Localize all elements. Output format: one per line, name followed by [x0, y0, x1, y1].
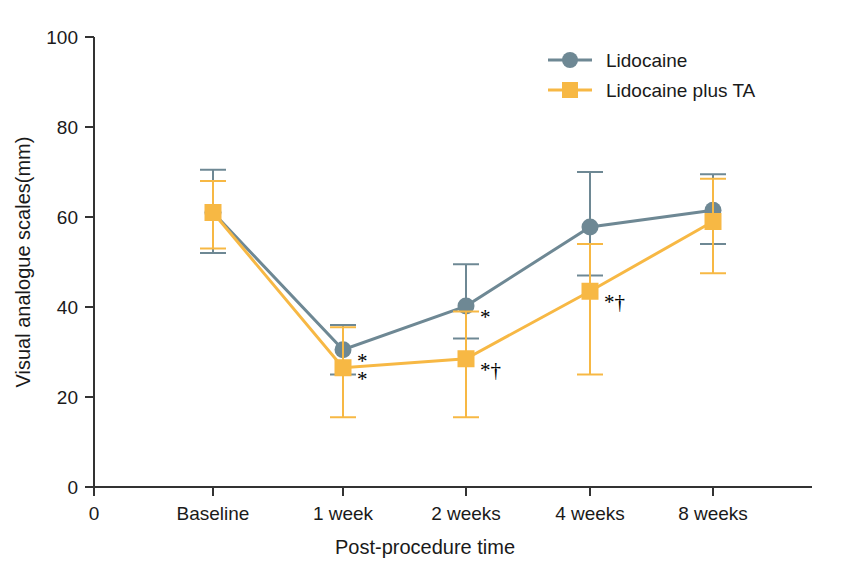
y-axis-tick-label: 60: [57, 207, 78, 228]
x-axis-tick-label: 2 weeks: [431, 503, 501, 524]
series-1: **: [200, 170, 726, 375]
series-2: **†*†: [200, 179, 726, 418]
data-point-marker[interactable]: [458, 350, 475, 367]
data-point-marker[interactable]: [582, 283, 599, 300]
x-axis-tick-label: 8 weeks: [678, 503, 748, 524]
significance-annotation: *: [357, 367, 368, 391]
y-axis-tick-label: 100: [46, 27, 78, 48]
legend-marker-circle: [562, 52, 578, 68]
x-axis-tick-label: 1 week: [313, 503, 374, 524]
y-axis-tick-label: 20: [57, 387, 78, 408]
chart-figure: 0204060801000Baseline1 week2 weeks4 week…: [0, 0, 850, 565]
x-axis-title: Post-procedure time: [335, 536, 515, 558]
vas-line-chart: 0204060801000Baseline1 week2 weeks4 week…: [0, 0, 850, 565]
x-axis-tick-label-origin: 0: [89, 503, 100, 524]
y-axis-tick-label: 0: [67, 477, 78, 498]
chart-legend: LidocaineLidocaine plus TA: [548, 50, 756, 101]
significance-annotation: *†: [604, 290, 625, 314]
series-line: [213, 210, 713, 350]
legend-marker-square: [562, 82, 578, 98]
y-axis-title: Visual analogue scales(mm): [12, 137, 34, 388]
legend-label-1: Lidocaine: [606, 50, 687, 71]
data-point-marker[interactable]: [705, 213, 722, 230]
legend-label-2: Lidocaine plus TA: [606, 80, 756, 101]
y-axis-tick-label: 40: [57, 297, 78, 318]
y-axis-tick-label: 80: [57, 117, 78, 138]
x-axis-tick-label: Baseline: [177, 503, 250, 524]
significance-annotation: *: [480, 305, 491, 329]
x-axis-tick-label: 4 weeks: [555, 503, 625, 524]
data-point-marker[interactable]: [582, 218, 599, 235]
data-point-marker[interactable]: [335, 359, 352, 376]
significance-annotation: *†: [480, 358, 501, 382]
data-point-marker[interactable]: [205, 204, 222, 221]
